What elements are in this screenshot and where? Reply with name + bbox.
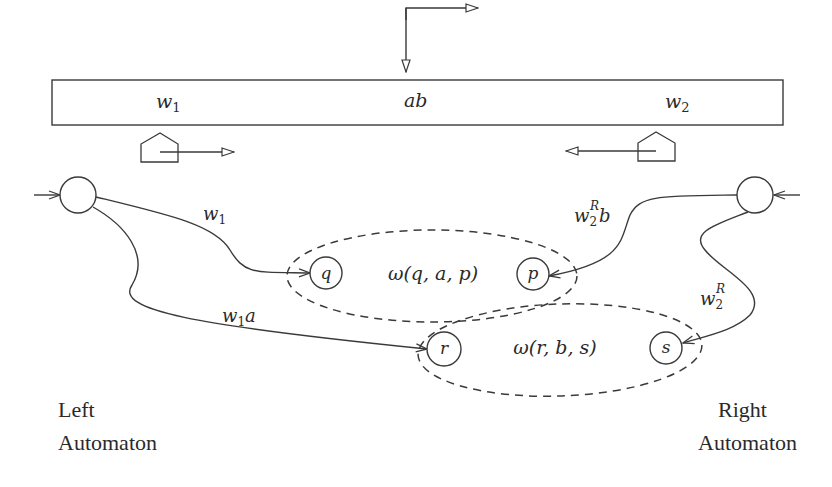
diagram-canvas: w1 ab w2 w1 w1a Left Automaton w2Rb w2R … [0, 0, 832, 487]
right-automaton-label-2: Automaton [698, 430, 797, 455]
left-head [141, 133, 234, 162]
group-label-rbs: ω(r, b, s) [513, 336, 596, 358]
left-automaton-label-2: Automaton [58, 430, 157, 455]
left-automaton: w1 w1a Left Automaton [34, 177, 427, 455]
group-label-qap: ω(q, a, p) [388, 262, 478, 284]
state-label-p: p [528, 263, 539, 283]
left-start-state [60, 177, 96, 213]
state-label-q: q [321, 263, 332, 283]
state-s: s [650, 332, 682, 364]
top-direction-indicator [406, 8, 478, 72]
edge-w1a-to-r [93, 207, 427, 349]
tape: w1 ab w2 [52, 80, 783, 125]
right-arrow-icon [406, 8, 478, 20]
right-automaton-label: Right [718, 397, 767, 422]
right-start-state [737, 177, 773, 213]
state-p: p [517, 258, 549, 290]
edge-label-w2R: w2R [700, 282, 725, 312]
state-q: q [310, 257, 342, 289]
head-pentagon-icon [638, 132, 675, 161]
tape-cell-ab: ab [404, 89, 428, 111]
edge-label-w1a: w1a [222, 305, 256, 329]
edge-label-w2Rb: w2Rb [574, 199, 611, 229]
right-head [566, 132, 675, 161]
left-automaton-label: Left [58, 397, 95, 422]
edge-label-w1: w1 [203, 203, 226, 227]
state-label-r: r [440, 338, 449, 358]
head-pentagon-icon [141, 133, 178, 162]
state-r: r [427, 332, 461, 366]
edge-w2R-to-s [683, 212, 755, 343]
right-automaton: w2Rb w2R Right Automaton [549, 177, 800, 455]
state-label-s: s [662, 337, 671, 357]
